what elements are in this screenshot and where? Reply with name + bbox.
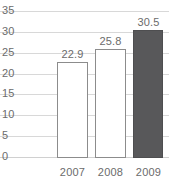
- y-tick-label-0: 0: [2, 151, 26, 162]
- bar-2009[interactable]: [133, 30, 163, 158]
- y-tick-label-15: 15: [2, 88, 26, 99]
- value-label-2009: 30.5: [123, 17, 169, 28]
- y-tick-label-30: 30: [2, 26, 26, 37]
- y-tick-label-10: 10: [2, 109, 26, 120]
- x-axis-label-2009: 2009: [123, 167, 169, 178]
- y-tick-label-35: 35: [2, 5, 26, 16]
- y-tick-label-20: 20: [2, 68, 26, 79]
- bar-2007[interactable]: [57, 62, 88, 158]
- value-label-2007: 22.9: [47, 49, 98, 60]
- bar-chart: 35 30 25 20 15 10 5 0 22.9 25.8 30.5 200…: [0, 0, 169, 182]
- y-tick-label-25: 25: [2, 47, 26, 58]
- y-tick-label-5: 5: [2, 130, 26, 141]
- value-label-2008: 25.8: [85, 36, 136, 47]
- bar-2008[interactable]: [95, 49, 126, 158]
